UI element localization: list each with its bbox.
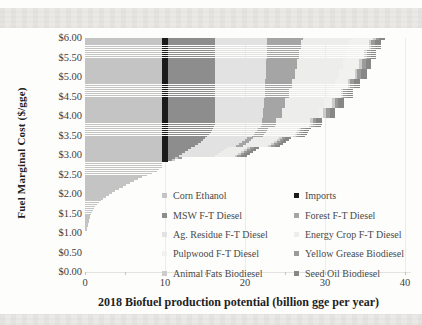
bar-animal: [274, 141, 277, 143]
bar-pulp: [319, 114, 324, 116]
legend-swatch-energy: [294, 232, 299, 237]
bar-yellow: [357, 73, 361, 75]
bar-forest: [266, 73, 295, 75]
bar-agres: [215, 112, 263, 114]
bar-imports: [162, 67, 168, 69]
bar-seed: [361, 69, 367, 71]
bar-corn: [85, 77, 162, 79]
bar-yellow: [371, 44, 375, 46]
bar-yellow: [313, 124, 317, 126]
bar-pulp: [339, 77, 354, 79]
bar-forest: [267, 38, 302, 40]
bar-forest: [267, 40, 301, 42]
bar-animal: [348, 83, 351, 85]
bar-animal: [277, 139, 280, 141]
bar-yellow: [362, 59, 366, 61]
bar-animal: [332, 100, 335, 102]
legend-item-corn: Corn Ethanol: [162, 186, 280, 205]
bar-imports: [162, 116, 168, 118]
bar-msw: [168, 50, 215, 52]
bar-imports: [162, 149, 168, 151]
bar-msw: [168, 122, 215, 124]
bar-corn: [85, 130, 162, 132]
bar-yellow: [280, 139, 284, 141]
legend-swatch-msw: [162, 213, 167, 218]
bar-corn: [85, 157, 162, 159]
bar-msw: [168, 97, 215, 99]
bar-forest: [262, 118, 276, 120]
bar-msw: [168, 136, 207, 138]
legend-swatch-corn: [162, 193, 167, 198]
bar-energy: [289, 91, 331, 93]
bar-yellow: [343, 95, 347, 97]
bar-yellow: [300, 130, 304, 132]
bar-corn: [85, 188, 119, 190]
bar-yellow: [335, 98, 339, 100]
bar-seed: [338, 100, 344, 102]
bar-pulp: [339, 69, 354, 71]
bar-corn: [85, 151, 162, 153]
bar-yellow: [241, 153, 245, 155]
bar-yellow: [362, 67, 366, 69]
bar-msw: [168, 126, 214, 128]
bar-imports: [162, 83, 168, 85]
bar-pulp: [346, 52, 364, 54]
bar-corn: [85, 61, 162, 63]
bar-corn: [85, 75, 162, 77]
bar-animal: [364, 52, 367, 54]
bar-animal: [297, 130, 300, 132]
bar-imports: [162, 147, 168, 149]
bar-seed: [354, 83, 360, 85]
bar-energy: [285, 104, 324, 106]
bar-agres: [185, 151, 221, 153]
bar-corn: [85, 134, 162, 136]
bar-seed: [330, 112, 336, 114]
bar-msw: [168, 132, 210, 134]
bar-seed: [315, 126, 321, 128]
bar-animal: [359, 65, 362, 67]
bar-msw: [168, 48, 215, 50]
bar-imports: [162, 100, 168, 102]
bar-corn: [85, 104, 162, 106]
bar-imports: [162, 56, 168, 58]
bar-imports: [162, 130, 168, 132]
bar-corn: [85, 112, 162, 114]
bar-pulp: [319, 108, 324, 110]
legend-label: MSW F-T Diesel: [173, 210, 242, 221]
y-tick-label: $2.50: [40, 169, 82, 180]
bar-animal: [348, 81, 351, 83]
bar-msw: [168, 91, 215, 93]
bar-imports: [162, 48, 168, 50]
bar-animal: [279, 137, 282, 139]
legend-item-forest: Forest F-T Diesel: [294, 205, 404, 224]
bar-seed: [361, 77, 367, 79]
bar-animal: [296, 132, 299, 134]
bar-agres: [215, 63, 266, 65]
bar-yellow: [350, 83, 354, 85]
bar-energy: [295, 73, 340, 75]
bar-msw: [168, 44, 215, 46]
bar-energy: [292, 87, 335, 89]
bar-imports: [162, 124, 168, 126]
bar-energy: [295, 77, 340, 79]
bar-yellow: [335, 100, 339, 102]
bar-seed: [283, 139, 289, 141]
y-axis-title: Fuel Marginal Cost ($/gge): [15, 87, 27, 218]
bar-msw: [168, 93, 215, 95]
bar-msw: [168, 147, 191, 149]
x-axis-title: 2018 Biofuel production potential (billi…: [55, 295, 422, 310]
bar-imports: [162, 114, 168, 116]
bar-animal: [323, 116, 326, 118]
legend-label: Corn Ethanol: [173, 190, 227, 201]
scanned-page: $0.00$0.50$1.00$1.50$2.00$2.50$3.00$3.50…: [0, 0, 422, 325]
bar-agres: [215, 54, 266, 56]
bar-forest: [266, 63, 296, 65]
bar-energy: [285, 102, 324, 104]
bar-energy: [292, 85, 335, 87]
bar-forest: [266, 59, 296, 61]
bar-imports: [162, 143, 168, 145]
bar-energy: [276, 120, 310, 122]
y-tick-label: $3.00: [40, 149, 82, 160]
bar-yellow: [326, 108, 330, 110]
bar-energy: [292, 79, 335, 81]
